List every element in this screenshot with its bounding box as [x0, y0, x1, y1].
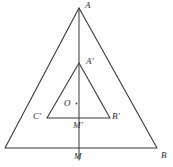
vertex-label-a-prime: A': [86, 57, 94, 66]
vertex-label-m-prime: M': [73, 121, 83, 130]
diagram-canvas: [0, 0, 173, 167]
center-point-dot: [76, 103, 78, 105]
vertex-label-b-prime: B': [112, 112, 120, 121]
vertex-label-b: B: [161, 151, 167, 160]
geometry-figure: A A' O C' B' M' M B: [0, 0, 173, 167]
vertex-label-m: M: [74, 152, 82, 161]
vertex-label-c-prime: C': [33, 112, 41, 121]
vertex-label-a: A: [85, 1, 91, 10]
vertex-label-o: O: [64, 99, 71, 108]
